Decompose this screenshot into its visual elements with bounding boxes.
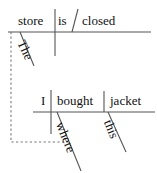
sentence-diagram: store is closed The I bought jacket wher… bbox=[0, 0, 157, 173]
word-i: I bbox=[41, 94, 45, 107]
word-is: is bbox=[58, 14, 67, 27]
predicate-adjective-divider bbox=[72, 9, 78, 32]
word-store: store bbox=[18, 14, 43, 27]
word-jacket: jacket bbox=[110, 94, 141, 107]
word-bought: bought bbox=[57, 94, 93, 107]
word-closed: closed bbox=[82, 14, 115, 27]
